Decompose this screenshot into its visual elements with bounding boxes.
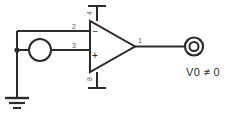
pin-label-output: 1 xyxy=(138,37,142,44)
inverting-polarity-mark: − xyxy=(93,26,99,37)
output-terminal-inner-ring xyxy=(190,42,199,51)
junction-dot xyxy=(14,47,19,52)
pin-label-inverting: 2 xyxy=(72,23,76,30)
voltage-source-symbol xyxy=(29,39,51,61)
output-voltage-annotation: V0 ≠ 0 xyxy=(186,66,220,78)
schematic-canvas: − + 2 3 1 4 8 xyxy=(0,0,241,119)
pin-label-v-minus: 8 xyxy=(86,77,93,81)
circuit-diagram: − + 2 3 1 4 8 V0 ≠ 0 xyxy=(0,0,241,119)
pin-label-v-plus: 4 xyxy=(86,11,93,15)
pin-label-noninverting: 3 xyxy=(72,42,76,49)
noninverting-polarity-mark: + xyxy=(92,50,98,61)
